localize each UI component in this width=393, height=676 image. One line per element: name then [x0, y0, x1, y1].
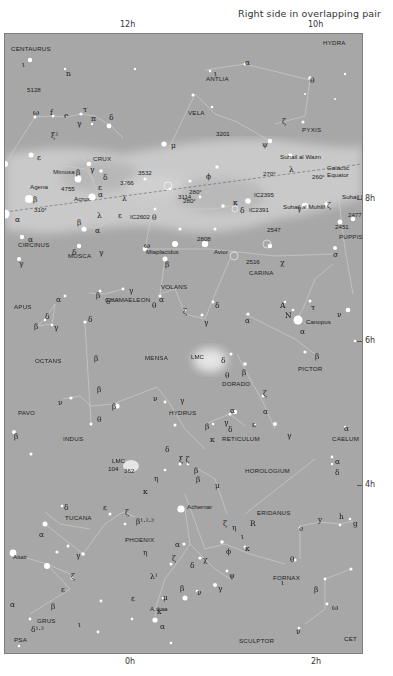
star-designation: h [339, 513, 344, 521]
star-designation: γ [180, 397, 184, 405]
star-designation: δ [64, 504, 69, 512]
star-designation: κ [245, 545, 250, 553]
star-designation: ε [118, 212, 122, 220]
hour-label-4h: 4h [365, 480, 375, 489]
constellation-label: GRUS [37, 618, 56, 624]
star-designation: α [230, 407, 235, 415]
star-designation: α [95, 227, 100, 235]
constellation-label: PYXIS [302, 127, 321, 133]
star-designation: β [14, 433, 18, 441]
star-designation: α [39, 531, 44, 539]
star-name-label: Suhail al Wazn [280, 154, 321, 160]
star-designation: α [160, 623, 165, 631]
deep-sky-object-label: 5128 [27, 87, 41, 93]
constellation-label: PICTOR [298, 366, 322, 372]
star-designation: ι [22, 61, 25, 69]
star-designation: ι [78, 621, 81, 629]
star-designation: θ [152, 302, 157, 310]
star-designation: δ [190, 562, 195, 570]
star-designation: N [285, 312, 292, 320]
star-designation: α [98, 191, 103, 199]
star-designation: α [245, 317, 250, 325]
star-designation: β [76, 169, 80, 177]
star-designation: δ¹·² [31, 626, 44, 634]
star-designation: χ [203, 556, 208, 564]
star-designation: λ [289, 166, 294, 174]
star-designation: β [112, 403, 116, 411]
star-designation: η [232, 524, 237, 532]
star-designation: α [263, 408, 268, 416]
galactic-longitude-label: 280° [189, 189, 202, 195]
star-designation: β [180, 585, 184, 593]
star-designation: θ [152, 214, 157, 222]
star-designation: θ [225, 372, 230, 380]
star-designation: n [66, 70, 71, 78]
constellation-label: PUPPIS [339, 234, 363, 240]
caption: Right side in overlapping pair [238, 8, 381, 19]
star-designation: ζ [172, 555, 176, 563]
star-designation: α [175, 541, 180, 549]
star-designation: δ [88, 316, 93, 324]
star-designation: λ [97, 212, 102, 220]
star-designation: ζ [282, 118, 286, 126]
star-designation: γ [218, 585, 222, 593]
star-designation: ζ [327, 202, 331, 210]
star-chart: CENTAURUSHYDRAANTLIAVELAPYXISCRUXCARINAP… [4, 33, 363, 654]
star-designation: δ [335, 469, 340, 477]
star-designation: ω [33, 109, 39, 117]
constellation-label: ANTLIA [206, 76, 229, 82]
constellation-label: INDUS [63, 436, 83, 442]
star-designation: δ [103, 174, 108, 182]
stars [5, 58, 356, 648]
star-designation: e [299, 525, 303, 533]
star-designation: β¹·²·³ [136, 518, 154, 526]
deep-sky-object-label: 2808 [197, 236, 211, 242]
hour-tick-4h [357, 485, 362, 486]
hour-label-6h: 6h [365, 336, 375, 345]
star-designation: β [33, 196, 37, 204]
star-designation: μ [163, 594, 168, 602]
constellation-label: CRUX [93, 156, 111, 162]
star-designation: γ [90, 166, 94, 174]
star-designation: ε [61, 586, 65, 594]
star-designation: f [50, 109, 53, 117]
star-designation: β [205, 423, 209, 431]
deep-sky-object-label: 104 [108, 466, 118, 472]
star-designation: ε [131, 595, 135, 603]
star-designation: λ¹ [150, 573, 158, 581]
hour-label-12h: 12h [120, 20, 135, 29]
star-designation: μ [171, 142, 176, 150]
star-name-label: Acrux [74, 196, 90, 202]
deep-sky-object-label: IC2602 [130, 214, 150, 220]
star-designation: α [300, 328, 305, 336]
star-designation: β [96, 292, 100, 300]
deep-sky-object-label: 2451 [335, 224, 349, 230]
constellation-label: DORADO [222, 381, 250, 387]
deep-sky-object-label: IC2395 [254, 192, 274, 198]
star-designation: δ [228, 426, 233, 434]
constellation-label: CIRCINUS [18, 242, 50, 248]
star-designation: ε [103, 504, 107, 512]
star-designation: ι [214, 70, 217, 78]
constellation-label: CARINA [249, 270, 274, 276]
star-designation: θ [310, 77, 315, 85]
star-designation: ω [144, 242, 150, 250]
star-designation: β [51, 603, 55, 611]
constellation-label: RETICULUM [222, 436, 260, 442]
star-designation: β [97, 386, 101, 394]
constellation-label: MENSA [145, 355, 168, 361]
star-designation: δ [165, 446, 170, 454]
constellation-label: ERIDANUS [257, 510, 291, 516]
star-designation: α [362, 575, 363, 583]
star-designation: γ [77, 120, 81, 128]
star-designation: κ [233, 199, 238, 207]
star-designation: ζ [223, 520, 227, 528]
star-designation: β [77, 219, 81, 227]
star-designation: ζ [125, 509, 129, 517]
star-designation: α [10, 601, 15, 609]
star-designation: ι [241, 533, 244, 541]
star-designation: σ [333, 251, 338, 259]
deep-sky-object-label: IC2391 [249, 207, 269, 213]
star-designation: τ [83, 106, 87, 114]
star-name-label: Miaplacidus [146, 249, 179, 255]
